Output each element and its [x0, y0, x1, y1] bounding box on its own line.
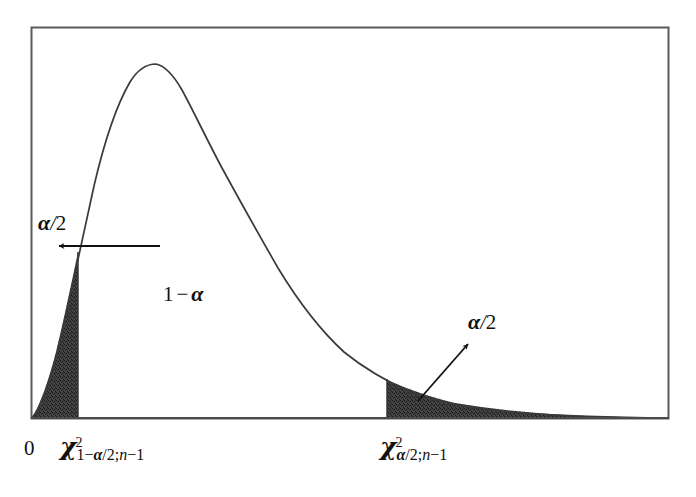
right-tail-alpha-label: α/2	[468, 311, 496, 333]
subscript-half: /2	[405, 446, 417, 463]
subscript-alpha: α	[93, 446, 102, 463]
alpha-symbol: α	[191, 281, 203, 306]
alpha-symbol: α	[468, 309, 480, 334]
one-symbol: 1	[163, 282, 174, 306]
minus-symbol: −	[174, 282, 192, 306]
chi-square-distribution-figure: α/2 α/2 1−α 0 χ21−α/2;n−1 χ2α/2;n−1	[0, 0, 696, 497]
left-critical-value-label: χ21−α/2;n−1	[60, 434, 144, 459]
subscript-one: 1	[439, 446, 447, 463]
subscript-minus-two: −	[127, 446, 136, 463]
chi-symbol: χ	[380, 432, 396, 461]
subscript-one-end: 1	[136, 446, 144, 463]
alpha-symbol: α	[38, 210, 50, 235]
chi-subscript: 1−α/2;n−1	[76, 446, 144, 463]
two-symbol: 2	[486, 310, 497, 334]
two-symbol: 2	[56, 211, 67, 235]
chi-subscript: α/2;n−1	[396, 446, 447, 463]
confidence-level-label: 1−α	[163, 283, 204, 305]
right-critical-value-label: χ2α/2;n−1	[380, 434, 447, 459]
axis-origin-label: 0	[24, 438, 35, 459]
chi-symbol: χ	[60, 432, 76, 461]
subscript-minus: −	[430, 446, 439, 463]
subscript-half: /2	[102, 446, 114, 463]
left-tail-alpha-label: α/2	[38, 212, 66, 234]
distribution-plot-svg	[0, 0, 696, 497]
subscript-alpha: α	[396, 446, 405, 463]
